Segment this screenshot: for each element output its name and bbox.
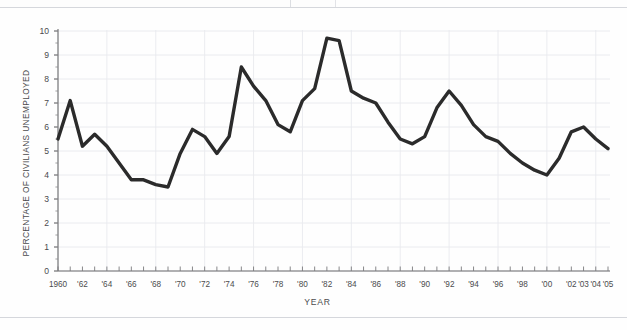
x-tick-label: '03 [578,280,589,289]
y-tick-label: 4 [44,170,49,180]
y-tick-label: 10 [39,26,49,36]
page-header-cell-right [291,0,336,7]
x-tick-label: '76 [248,280,259,289]
x-tick-label: '80 [297,280,308,289]
x-tick-label: '90 [419,280,430,289]
x-tick-label: '72 [199,280,210,289]
scanned-page: PERCENTAGE OF CIVILIANS UNEMPLOYED 01234… [0,0,627,330]
y-tick-label: 3 [44,194,49,204]
unemployment-line-chart: PERCENTAGE OF CIVILIANS UNEMPLOYED 01234… [0,8,627,313]
x-tick-label: '84 [346,280,357,289]
x-tick-label: '86 [370,280,381,289]
x-tick-label: '98 [517,280,528,289]
x-tick-label: '05 [603,280,614,289]
unemployment-series [58,38,608,187]
x-tick-label: '78 [273,280,284,289]
x-axis: 1960'62'64'66'68'70'72'74'76'78'80'82'84… [49,267,614,290]
x-tick-label: '64 [102,280,113,289]
gridlines [58,30,610,271]
x-tick-label: '00 [542,280,553,289]
page-bottom-rule [0,317,627,318]
y-tick-label: 8 [44,74,49,84]
y-tick-label: 1 [44,242,49,252]
y-tick-label: 7 [44,98,49,108]
x-axis-title-text: YEAR [296,297,331,307]
y-axis: 012345678910 [39,26,58,276]
x-tick-label: '94 [468,280,479,289]
y-tick-label: 9 [44,50,49,60]
x-tick-label: '96 [493,280,504,289]
x-tick-label: '04 [590,280,601,289]
x-tick-label: '68 [150,280,161,289]
chart-plot-area: 012345678910 1960'62'64'66'68'70'72'74'7… [0,8,627,313]
y-tick-label: 5 [44,146,49,156]
y-tick-label: 6 [44,122,49,132]
unemployment-line [58,38,608,187]
y-tick-label: 0 [44,266,49,276]
x-tick-label: '62 [77,280,88,289]
x-axis-title: YEAR [0,297,627,307]
x-tick-label: '66 [126,280,137,289]
x-tick-label: 1960 [49,280,68,289]
x-tick-label: '02 [566,280,577,289]
x-tick-label: '70 [175,280,186,289]
x-tick-label: '74 [224,280,235,289]
x-tick-label: '88 [395,280,406,289]
x-tick-label: '82 [322,280,333,289]
x-tick-label: '92 [444,280,455,289]
y-tick-label: 2 [44,218,49,228]
